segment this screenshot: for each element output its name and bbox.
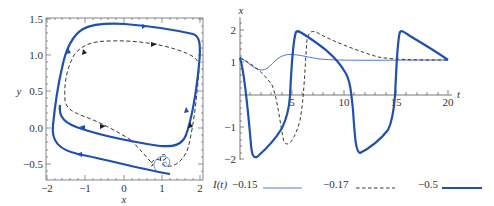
series-0.15 <box>240 54 448 70</box>
y-tick-label: 0.5 <box>29 85 43 97</box>
t-tick-label: 10 <box>339 96 351 108</box>
x-tick-label-right: −1 <box>224 121 236 133</box>
phase-portrait-plot: −2 −1 0 1 2 −0.5 0.0 0.5 1.0 1.5 x y <box>16 13 203 205</box>
t-tick-label: 15 <box>391 96 403 108</box>
t-axis-label: t <box>457 88 461 100</box>
trajectory-thick <box>53 24 200 174</box>
figure: −2 −1 0 1 2 −0.5 0.0 0.5 1.0 1.5 x y <box>0 0 494 206</box>
x-ticks-right <box>240 23 244 159</box>
x-axis-label-right: x <box>238 4 244 16</box>
legend: I(t) −0.15 −0.17 −0.5 <box>212 178 482 191</box>
legend-label: −0.15 <box>232 178 258 190</box>
y-tick-label: −0.5 <box>23 158 43 170</box>
y-tick-label: 0.0 <box>29 122 43 134</box>
y-ticks <box>46 19 203 171</box>
x-tick-label-right: 1 <box>231 56 237 68</box>
y-tick-label: 1.0 <box>29 49 43 61</box>
x-tick-label: 1 <box>159 182 165 194</box>
y-axis-label: y <box>16 85 22 97</box>
y-tick-label: 1.5 <box>29 13 43 25</box>
time-series-plot: 5 10 15 20 2 1 −1 −2 x t <box>224 4 461 165</box>
t-ticks <box>250 90 448 95</box>
x-tick-label-right: 2 <box>231 24 237 36</box>
trajectory-dashed <box>65 41 199 166</box>
direction-arrows <box>66 24 189 157</box>
x-tick-label: −2 <box>41 182 53 194</box>
x-tick-label-right: −2 <box>224 153 236 165</box>
legend-label: −0.17 <box>323 178 349 190</box>
legend-label: −0.5 <box>418 178 438 190</box>
x-axis-label: x <box>121 193 127 205</box>
direction-arrows-dashed <box>82 42 193 129</box>
trajectory-thin <box>154 157 170 170</box>
legend-title: I(t) <box>212 178 227 191</box>
t-tick-label: 20 <box>443 96 455 108</box>
x-tick-label: −1 <box>79 182 91 194</box>
series-0.17 <box>240 31 448 143</box>
x-tick-label: 2 <box>197 182 203 194</box>
